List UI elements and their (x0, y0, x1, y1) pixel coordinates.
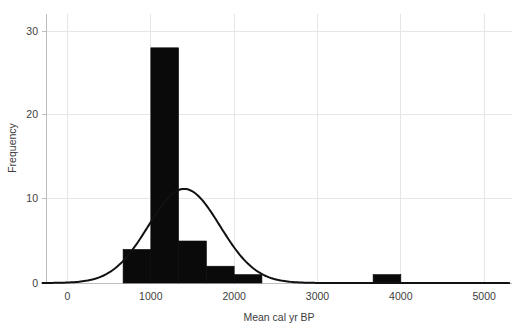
x-tick-label-2000: 2000 (223, 290, 247, 302)
x-tick-label-1000: 1000 (139, 290, 163, 302)
y-tick-label-30: 30 (26, 25, 38, 37)
histogram-bar (206, 266, 234, 283)
x-axis-title: Mean cal yr BP (243, 311, 314, 323)
y-axis-title: Frequency (6, 122, 18, 172)
histogram-bar (151, 48, 179, 283)
histogram-figure: 30 20 10 0 0 1000 2000 3000 4000 5000 Me… (0, 0, 517, 329)
histogram-bar (179, 241, 207, 283)
y-tick-marks (42, 31, 46, 283)
x-tick-labels: 0 1000 2000 3000 4000 5000 (65, 290, 496, 302)
chart-canvas: 30 20 10 0 0 1000 2000 3000 4000 5000 Me… (0, 0, 517, 329)
plot-background (46, 14, 512, 283)
histogram-bar (373, 275, 401, 283)
histogram-bar (123, 249, 151, 283)
histogram-bar (234, 275, 262, 283)
y-tick-labels: 30 20 10 0 (26, 25, 38, 289)
x-tick-label-0: 0 (65, 290, 71, 302)
x-tick-label-4000: 4000 (389, 290, 413, 302)
y-tick-label-10: 10 (26, 192, 38, 204)
x-tick-label-3000: 3000 (306, 290, 330, 302)
y-tick-label-0: 0 (32, 277, 38, 289)
y-tick-label-20: 20 (26, 108, 38, 120)
x-tick-label-5000: 5000 (473, 290, 497, 302)
